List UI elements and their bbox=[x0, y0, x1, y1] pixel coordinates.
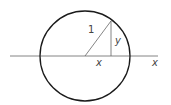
unit-circle-diagram: 1 y x x bbox=[0, 0, 171, 105]
adjacent-x-label: x bbox=[95, 57, 102, 68]
axis-x-label: x bbox=[151, 57, 158, 68]
y-label: y bbox=[114, 35, 122, 46]
radius-label: 1 bbox=[88, 24, 94, 35]
